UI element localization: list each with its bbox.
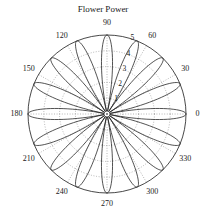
angular-tick-label-120: 120 (56, 31, 68, 40)
polar-plot-canvas: 0306090120150180210240270300330 12345 Fl… (0, 0, 206, 217)
angular-tick-label-group: 0306090120150180210240270300330 (11, 18, 200, 208)
radial-tick-label-1: 1 (114, 94, 118, 103)
angular-tick-label-300: 300 (146, 187, 158, 196)
radial-tick-label-2: 2 (118, 79, 122, 88)
chart-title: Flower Power (78, 4, 129, 14)
grid-layer (28, 35, 186, 193)
radial-tick-label-4: 4 (127, 49, 131, 58)
angular-tick-label-270: 270 (101, 199, 113, 208)
angular-tick-label-60: 60 (148, 31, 156, 40)
polar-chart-figure: 0306090120150180210240270300330 12345 Fl… (0, 0, 206, 217)
radial-tick-label-3: 3 (122, 64, 126, 73)
angular-tick-label-330: 330 (179, 154, 191, 163)
angular-tick-label-150: 150 (23, 64, 35, 73)
angular-tick-label-30: 30 (181, 64, 189, 73)
angular-tick-label-210: 210 (23, 154, 35, 163)
angular-gridline-group (28, 35, 186, 193)
angular-tick-label-90: 90 (103, 18, 111, 27)
angular-tick-label-180: 180 (11, 109, 23, 118)
angular-tick-label-0: 0 (196, 109, 200, 118)
radial-tick-label-5: 5 (131, 33, 135, 42)
angular-tick-label-240: 240 (56, 187, 68, 196)
